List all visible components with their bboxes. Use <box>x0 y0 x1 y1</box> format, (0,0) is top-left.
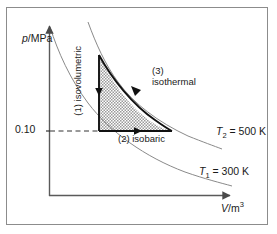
isotherm-t1-unit: K <box>242 165 249 177</box>
y-axis-unit: /MPa <box>28 32 53 44</box>
isotherm-t1-value: 300 <box>222 165 240 177</box>
x-axis-exponent: 3 <box>240 200 244 209</box>
isotherm-t1-subscript: 1 <box>205 171 209 180</box>
isotherm-t1-equals: = <box>213 165 219 177</box>
x-axis-unit: /m <box>228 202 240 214</box>
process-3-name: isothermal <box>152 77 196 88</box>
process-2-label: (2) isobaric <box>118 134 165 145</box>
process-3-label: (3)isothermal <box>152 66 196 87</box>
process-1-label-text: (1) isovolumetric <box>73 46 84 116</box>
pv-diagram-figure: p/MPa 0.10 V/m3 (1) isovolumetric (3)iso… <box>0 0 277 234</box>
y-tick-label: 0.10 <box>15 124 35 136</box>
isotherm-t2-unit: K <box>259 125 266 137</box>
isotherm-t2-value: 500 <box>239 125 257 137</box>
process-3-number: (3) <box>152 65 164 76</box>
isotherm-t1-label: T1 = 300 K <box>199 166 249 181</box>
isotherm-t2-label: T2 = 500 K <box>216 126 266 141</box>
x-axis-label: V/m3 <box>221 201 244 214</box>
isotherm-t2-equals: = <box>230 125 236 137</box>
isotherm-t2-subscript: 2 <box>222 131 226 140</box>
x-axis-symbol: V <box>221 202 228 214</box>
y-axis-label: p/MPa <box>22 33 52 45</box>
process-3-direction-arrow-icon <box>131 86 141 96</box>
